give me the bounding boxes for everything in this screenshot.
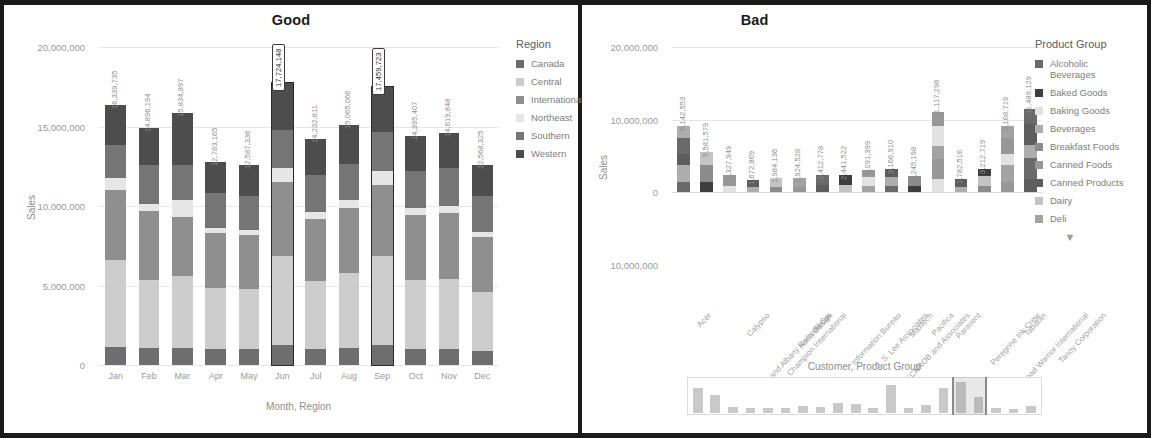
bar-segment[interactable] [439,206,460,213]
bar-segment[interactable] [372,185,393,257]
bar-segment[interactable] [793,187,806,193]
bar-segment[interactable] [700,182,713,193]
bar-segment[interactable] [1001,154,1014,165]
bar-segment[interactable] [472,292,493,351]
bar-segment[interactable] [305,175,326,212]
bar-segment[interactable] [1001,182,1014,193]
bar-segment[interactable] [405,349,426,365]
bar-column[interactable] [439,133,460,365]
bar-segment[interactable] [105,190,126,260]
bar-segment[interactable] [172,217,193,276]
bar-segment[interactable] [272,256,293,345]
bar-segment[interactable] [978,186,991,192]
bar-segment[interactable] [439,349,460,365]
bar-column[interactable] [372,87,393,365]
bar-segment[interactable] [339,200,360,208]
bar-segment[interactable] [932,146,945,159]
bar-segment[interactable] [172,165,193,200]
bar-segment[interactable] [172,113,193,164]
bar-column[interactable] [1001,126,1014,193]
bar-column[interactable] [472,165,493,365]
bar-segment[interactable] [172,348,193,365]
bar-column[interactable] [405,136,426,365]
legend-item-international[interactable]: International [516,94,583,105]
bar-segment[interactable] [305,219,326,281]
bar-segment[interactable] [405,215,426,280]
bar-column[interactable] [239,165,260,365]
bar-segment[interactable] [885,186,898,192]
mini-chart-scroller[interactable]: Customer, Product Group [687,377,1042,415]
bar-segment[interactable] [239,165,260,196]
bar-column[interactable] [105,105,126,365]
bar-segment[interactable] [205,162,226,193]
bar-segment[interactable] [139,165,160,204]
bar-segment[interactable] [272,130,293,168]
legend-item-breakfast-foods[interactable]: Breakfast Foods [1035,141,1123,152]
bar-segment[interactable] [139,128,160,165]
bar-segment[interactable] [770,187,783,193]
bar-segment[interactable] [439,279,460,349]
legend-item-western[interactable]: Western [516,148,583,159]
bar-segment[interactable] [978,176,991,186]
bar-segment[interactable] [439,168,460,206]
bar-segment[interactable] [472,351,493,365]
bar-segment[interactable] [372,171,393,185]
bar-segment[interactable] [839,185,852,192]
bar-segment[interactable] [439,133,460,168]
bar-segment[interactable] [677,138,690,155]
bar-segment[interactable] [1001,138,1014,155]
bar-segment[interactable] [405,136,426,171]
bar-column[interactable] [677,126,690,192]
bar-segment[interactable] [305,139,326,175]
bar-segment[interactable] [700,165,713,182]
bar-segment[interactable] [372,345,393,365]
bar-segment[interactable] [139,204,160,210]
bar-segment[interactable] [272,345,293,365]
bar-segment[interactable] [955,187,968,192]
bar-segment[interactable] [472,196,493,232]
bar-column[interactable] [272,83,293,365]
bar-segment[interactable] [239,235,260,289]
legend-item-deli[interactable]: Deli [1035,213,1123,224]
bar-column[interactable] [172,113,193,365]
bar-segment[interactable] [372,132,393,172]
bar-segment[interactable] [105,105,126,145]
bar-segment[interactable] [677,182,690,193]
bar-segment[interactable] [405,171,426,208]
bar-segment[interactable] [339,208,360,273]
bar-segment[interactable] [908,186,921,193]
chevron-down-icon[interactable]: ▼ [1035,231,1105,243]
bar-segment[interactable] [472,165,493,196]
bar-segment[interactable] [339,273,360,348]
legend-item-canada[interactable]: Canada [516,58,583,69]
bar-segment[interactable] [239,230,260,235]
bar-segment[interactable] [885,177,898,187]
bar-segment[interactable] [932,179,945,192]
bar-segment[interactable] [677,165,690,182]
bar-segment[interactable] [932,159,945,179]
bar-segment[interactable] [472,237,493,292]
bar-segment[interactable] [405,208,426,214]
bar-column[interactable] [339,125,360,365]
bar-column[interactable] [205,162,226,365]
legend-item-beverages[interactable]: Beverages [1035,123,1123,134]
bar-segment[interactable] [105,260,126,347]
bar-segment[interactable] [172,200,193,217]
bar-column[interactable] [932,112,945,193]
bar-segment[interactable] [339,125,360,163]
bar-segment[interactable] [305,349,326,365]
bar-segment[interactable] [239,196,260,230]
bar-column[interactable] [139,128,160,365]
bar-segment[interactable] [677,154,690,165]
bar-column[interactable] [305,139,326,365]
legend-item-baked-goods[interactable]: Baked Goods [1035,87,1123,98]
legend-item-baking-goods[interactable]: Baking Goods [1035,105,1123,116]
bar-segment[interactable] [305,212,326,218]
bar-segment[interactable] [472,232,493,237]
bar-segment[interactable] [339,164,360,201]
bar-segment[interactable] [205,349,226,365]
bar-segment[interactable] [205,228,226,234]
bar-segment[interactable] [932,126,945,146]
legend-item-canned-foods[interactable]: Canned Foods [1035,159,1123,170]
mini-chart-selection-handle[interactable] [952,377,987,415]
